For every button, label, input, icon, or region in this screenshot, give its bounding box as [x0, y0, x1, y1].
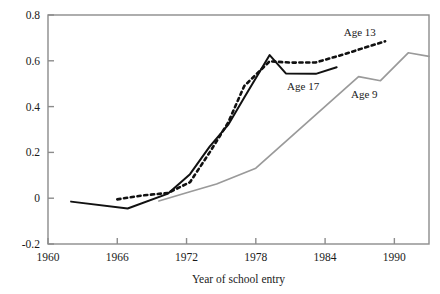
series-line-age-9	[159, 53, 429, 201]
series-line-age-13	[117, 41, 385, 199]
series-label-age-13: Age 13	[344, 26, 377, 38]
series-label-age-17: Age 17	[287, 80, 320, 92]
x-axis-tick-label: 1978	[244, 251, 267, 263]
chart-figure: 0.80.60.40.20-0.219601966197219781984199…	[0, 0, 440, 294]
y-axis-tick-label: -0.2	[22, 238, 40, 250]
x-axis-tick-label: 1984	[314, 251, 337, 263]
x-axis-title: Year of school entry	[192, 273, 285, 286]
x-axis-tick-label: 1990	[383, 251, 406, 263]
x-axis-tick-label: 1960	[37, 251, 60, 263]
line-chart: 0.80.60.40.20-0.219601966197219781984199…	[0, 0, 440, 294]
y-axis-tick-label: 0.6	[26, 55, 41, 67]
x-axis-tick-label: 1972	[175, 251, 198, 263]
plot-frame	[48, 15, 429, 244]
y-axis-tick-label: 0.8	[26, 9, 41, 21]
series-label-age-9: Age 9	[351, 88, 378, 100]
y-axis-tick-label: 0.4	[26, 101, 41, 113]
y-axis-tick-label: 0	[34, 192, 40, 204]
y-axis-tick-label: 0.2	[26, 146, 41, 158]
x-axis-tick-label: 1966	[106, 251, 129, 263]
